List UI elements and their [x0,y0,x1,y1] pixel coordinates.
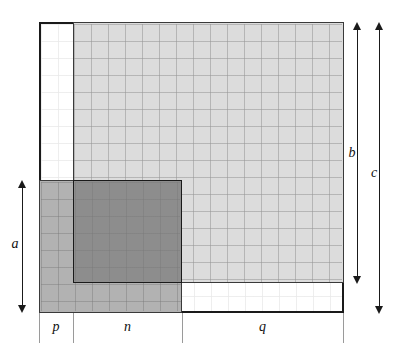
dimension-label-b: b [345,145,359,161]
overlap-region-a-b [73,180,182,283]
arrowhead-c-top [375,22,383,30]
segment-label-p: p [39,319,73,335]
tick-right-edge [343,313,344,343]
dimension-label-a: a [8,236,22,252]
dimension-line-a [22,187,23,305]
geometric-figure: a b c p n q [0,0,398,358]
arrowhead-a-top [18,180,26,188]
dimension-label-c: c [367,165,381,181]
segment-label-n: n [73,319,182,335]
arrowhead-b-top [353,22,361,30]
arrowhead-a-bottom [18,305,26,313]
arrowhead-b-bottom [353,276,361,284]
arrowhead-c-bottom [375,306,383,314]
segment-label-q: q [182,319,343,335]
